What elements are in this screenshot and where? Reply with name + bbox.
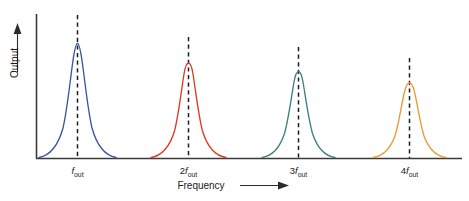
up-arrow-icon	[14, 23, 22, 34]
x-tick-labels: fout 2fout 3fout 4fout	[71, 165, 418, 178]
x-tick-label-4: 4fout	[401, 165, 418, 178]
x-axis-label: Frequency	[177, 180, 224, 191]
chart-figure: Output Frequency fout	[0, 0, 469, 201]
axes-group	[36, 14, 462, 159]
x-axis-title-group: Frequency	[177, 180, 289, 191]
x-tick-label-3: 3fout	[290, 165, 307, 178]
peak-curves-group	[39, 44, 446, 158]
chart-canvas: Output Frequency fout	[0, 0, 469, 201]
right-arrow-icon	[278, 182, 289, 190]
peak-curve-3	[262, 72, 335, 158]
y-axis-title-group: Output	[9, 23, 22, 78]
x-tick-label-2: 2fout	[180, 165, 197, 178]
peak-marker-lines	[78, 15, 410, 158]
y-axis-label: Output	[9, 48, 20, 78]
x-tick-label-1: fout	[71, 165, 83, 178]
